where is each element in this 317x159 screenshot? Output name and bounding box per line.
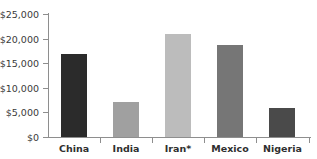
y-axis-label-5000: $5,000 — [0, 108, 39, 118]
x-axis-label-india: India — [100, 144, 152, 154]
y-tick-0 — [43, 137, 48, 138]
y-axis-label-15000: $15,000 — [0, 59, 39, 69]
y-axis-label-20000: $20,000 — [0, 35, 39, 45]
x-axis-label-nigeria: Nigeria — [256, 144, 309, 154]
y-axis-label-10000: $10,000 — [0, 84, 39, 94]
x-axis-label-mexico: Mexico — [204, 144, 256, 154]
bar-mexico — [217, 45, 243, 137]
x-axis-label-china: China — [48, 144, 100, 154]
x-tick-4 — [256, 138, 257, 143]
plot-area — [48, 14, 310, 137]
x-tick-3 — [204, 138, 205, 143]
x-axis-label-iran: Iran* — [152, 144, 204, 154]
x-axis-line — [48, 137, 311, 138]
x-tick-5 — [309, 138, 310, 143]
bar-nigeria — [269, 108, 295, 137]
bar-india — [113, 102, 139, 137]
bar-iran — [165, 34, 191, 137]
y-axis-label-0: $0 — [0, 133, 39, 143]
bar-china — [61, 54, 87, 137]
x-tick-2 — [152, 138, 153, 143]
y-axis-label-25000: $25,000 — [0, 10, 39, 20]
chart-title-clipped — [0, 0, 317, 3]
x-tick-1 — [100, 138, 101, 143]
bar-chart: $25,000 $20,000 $15,000 $10,000 $5,000 $… — [0, 0, 317, 159]
